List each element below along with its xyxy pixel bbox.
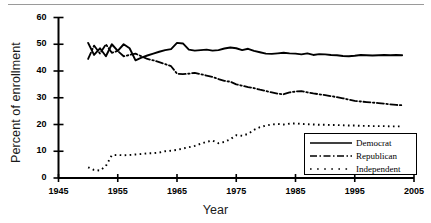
y-tick-label: 30 xyxy=(23,92,47,102)
chart-figure: 0102030405060 19451955196519751985199520… xyxy=(0,0,431,223)
legend-item-independent: Independent xyxy=(309,162,414,176)
series-line-democrat xyxy=(88,43,402,60)
x-tick-label: 1985 xyxy=(276,186,316,196)
legend-item-democrat: Democrat xyxy=(309,136,414,150)
x-tick-label: 1955 xyxy=(98,186,138,196)
x-tick-label: 1945 xyxy=(39,186,79,196)
y-tick-label: 10 xyxy=(23,145,47,155)
y-tick-label: 60 xyxy=(23,12,47,22)
legend: Democrat Republican Independent xyxy=(304,133,417,175)
y-tick-label: 50 xyxy=(23,38,47,48)
y-tick-label: 20 xyxy=(23,119,47,129)
y-tick-label: 0 xyxy=(23,172,47,182)
legend-swatch-independent xyxy=(309,164,353,174)
x-axis-title: Year xyxy=(0,203,431,217)
legend-swatch-republican xyxy=(309,151,353,161)
x-tick-label: 1965 xyxy=(157,186,197,196)
series-line-republican xyxy=(88,44,402,105)
x-tick-label: 1975 xyxy=(216,186,256,196)
legend-label-democrat: Democrat xyxy=(356,138,391,148)
x-tick-label: 1995 xyxy=(335,186,375,196)
x-tick-label: 2005 xyxy=(394,186,431,196)
y-axis-title: Percent of enrollment xyxy=(9,43,23,163)
legend-label-republican: Republican xyxy=(356,151,397,161)
legend-label-independent: Independent xyxy=(356,164,400,174)
y-tick-label: 40 xyxy=(23,65,47,75)
legend-item-republican: Republican xyxy=(309,149,414,163)
legend-swatch-democrat xyxy=(309,138,353,148)
